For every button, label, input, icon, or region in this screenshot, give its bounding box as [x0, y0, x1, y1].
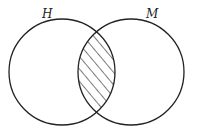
venn-diagram: H M: [0, 0, 197, 137]
set-m-label: M: [145, 7, 159, 21]
set-h-label: H: [41, 7, 53, 21]
